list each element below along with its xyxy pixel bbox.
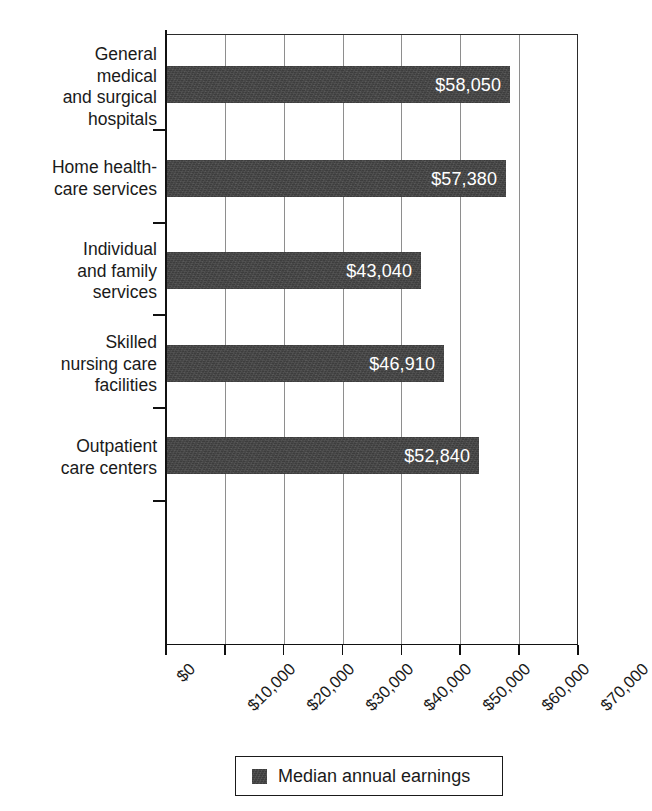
bar-general-medical-and-surgical-hospitals[interactable]: $58,050 bbox=[167, 66, 510, 103]
gridline bbox=[284, 35, 285, 644]
plot-area bbox=[166, 34, 578, 645]
gridline bbox=[225, 35, 226, 644]
category-label-outpatient-care-centers: Outpatient care centers bbox=[61, 436, 157, 479]
gridline bbox=[519, 35, 520, 644]
x-axis-tick bbox=[283, 645, 285, 655]
x-axis-label-30000: $30,000 bbox=[362, 660, 416, 714]
y-axis-tick bbox=[153, 314, 166, 316]
x-axis-label-20000: $20,000 bbox=[303, 660, 357, 714]
x-axis-label-0: $0 bbox=[173, 660, 198, 685]
x-axis-label-10000: $10,000 bbox=[244, 660, 298, 714]
category-label-general-medical-and-surgical-hospitals: General medical and surgical hospitals bbox=[63, 44, 157, 130]
x-axis-tick bbox=[165, 645, 167, 655]
gridline bbox=[401, 35, 402, 644]
y-axis-tick bbox=[153, 222, 166, 224]
bar-value-label: $58,050 bbox=[435, 76, 510, 94]
legend-swatch-icon bbox=[252, 769, 267, 784]
gridline bbox=[460, 35, 461, 644]
bar-outpatient-care-centers[interactable]: $52,840 bbox=[167, 437, 479, 474]
x-axis-label-70000: $70,000 bbox=[597, 660, 651, 714]
bar-individual-and-family-services[interactable]: $43,040 bbox=[167, 252, 421, 289]
x-axis-tick bbox=[342, 645, 344, 655]
bar-value-label: $46,910 bbox=[369, 355, 444, 373]
chart-legend: Median annual earnings bbox=[235, 756, 503, 796]
bar-value-label: $43,040 bbox=[346, 262, 421, 280]
y-axis-tick bbox=[153, 407, 166, 409]
y-axis-line bbox=[165, 30, 167, 649]
legend-label: Median annual earnings bbox=[278, 766, 470, 787]
x-axis-tick bbox=[224, 645, 226, 655]
bar-home-health-care-services[interactable]: $57,380 bbox=[167, 160, 506, 197]
y-axis-tick bbox=[153, 500, 166, 502]
x-axis-tick bbox=[518, 645, 520, 655]
gridline bbox=[343, 35, 344, 644]
x-axis-tick bbox=[459, 645, 461, 655]
category-label-home-health-care-services: Home health- care services bbox=[52, 157, 157, 200]
bar-value-label: $52,840 bbox=[404, 447, 479, 465]
category-label-skilled-nursing-care-facilities: Skilled nursing care facilities bbox=[61, 332, 157, 397]
category-label-individual-and-family-services: Individual and family services bbox=[77, 239, 157, 304]
x-axis-tick bbox=[401, 645, 403, 655]
x-axis-label-40000: $40,000 bbox=[420, 660, 474, 714]
x-axis-tick bbox=[577, 645, 579, 655]
bar-value-label: $57,380 bbox=[431, 170, 506, 188]
x-axis-label-50000: $50,000 bbox=[479, 660, 533, 714]
bar-skilled-nursing-care-facilities[interactable]: $46,910 bbox=[167, 345, 444, 382]
x-axis-label-60000: $60,000 bbox=[538, 660, 592, 714]
